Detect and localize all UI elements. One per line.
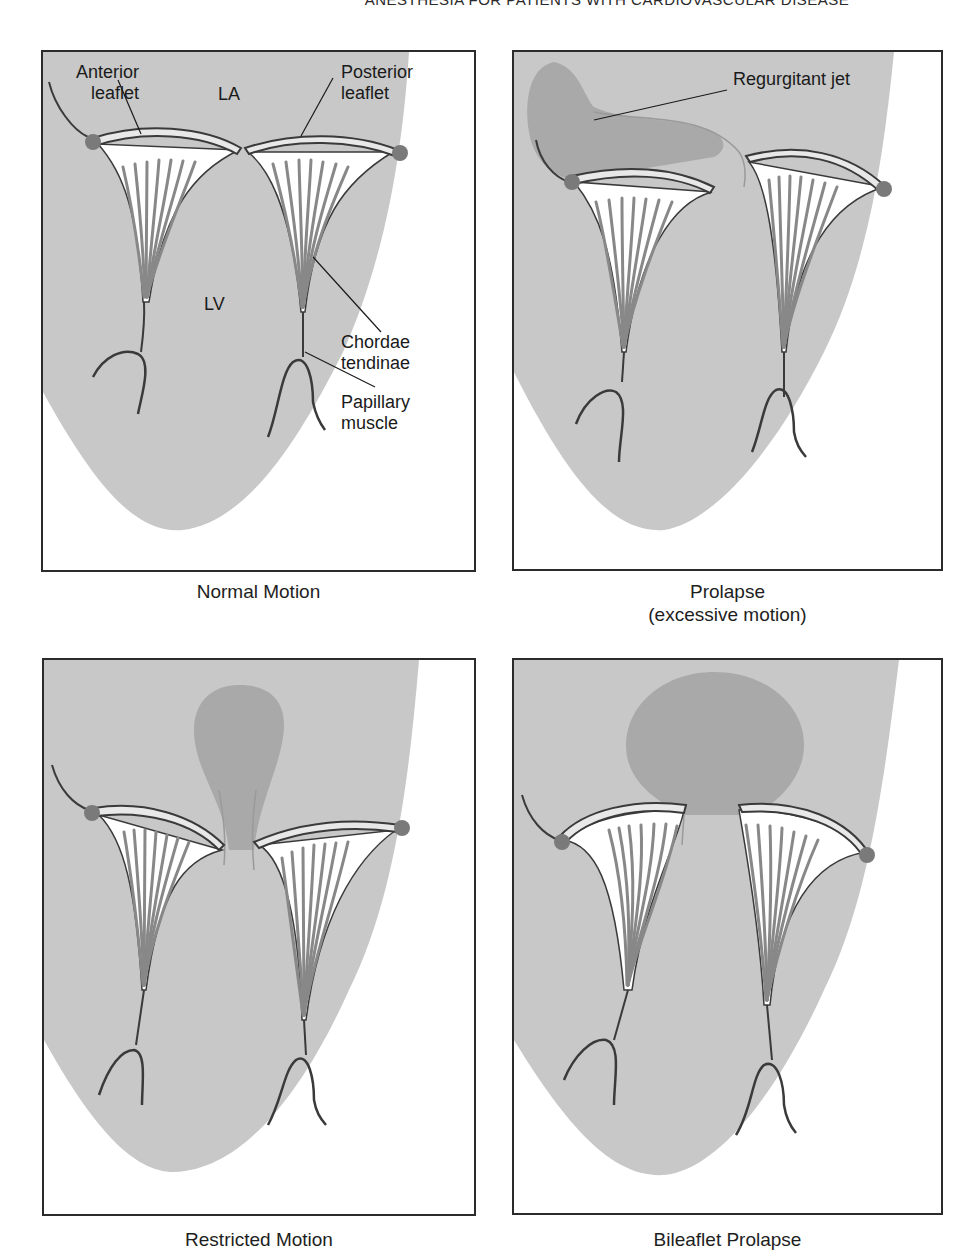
annulus-dot bbox=[84, 805, 100, 821]
panel-bileaflet-prolapse bbox=[512, 658, 943, 1215]
normal-valve-illustration bbox=[43, 52, 474, 570]
prolapse-valve-illustration bbox=[514, 52, 941, 569]
panel-prolapse: Regurgitant jet bbox=[512, 50, 943, 571]
bileaflet-valve-illustration bbox=[514, 660, 941, 1213]
annulus-dot bbox=[564, 174, 580, 190]
ventricle-shape bbox=[43, 52, 409, 530]
annulus-dot bbox=[554, 834, 570, 850]
annulus-dot bbox=[876, 181, 892, 197]
label-anterior-leaflet: Anterior leaflet bbox=[73, 62, 139, 104]
regurgitant-jet bbox=[626, 672, 804, 815]
label-posterior-leaflet: Posterior leaflet bbox=[341, 62, 413, 104]
panel-normal-motion: Anterior leaflet LA Posterior leaflet LV… bbox=[41, 50, 476, 572]
label-la: LA bbox=[218, 84, 240, 105]
restricted-valve-illustration bbox=[44, 660, 474, 1214]
label-papillary-muscle: Papillary muscle bbox=[341, 392, 410, 434]
caption-prolapse: Prolapse (excessive motion) bbox=[512, 580, 943, 626]
annulus-dot bbox=[859, 847, 875, 863]
annulus-dot bbox=[394, 820, 410, 836]
label-lv: LV bbox=[204, 294, 225, 315]
caption-restricted-motion: Restricted Motion bbox=[42, 1228, 476, 1250]
caption-bileaflet-prolapse: Bileaflet Prolapse bbox=[512, 1228, 943, 1250]
caption-normal-motion: Normal Motion bbox=[41, 580, 476, 603]
page-header: ANESTHESIA FOR PATIENTS WITH CARDIOVASCU… bbox=[0, 0, 974, 8]
label-regurgitant-jet: Regurgitant jet bbox=[733, 69, 850, 90]
annulus-dot bbox=[392, 145, 408, 161]
label-chordae-tendinae: Chordae tendinae bbox=[341, 332, 410, 374]
annulus-dot bbox=[85, 134, 101, 150]
panel-restricted-motion bbox=[42, 658, 476, 1216]
